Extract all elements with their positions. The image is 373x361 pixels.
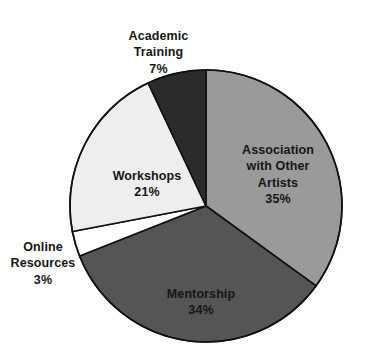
pie-chart-canvas [0,0,373,361]
pie-chart: Association with Other Artists 35% Mento… [0,0,373,361]
pie-slice-group [70,70,342,342]
